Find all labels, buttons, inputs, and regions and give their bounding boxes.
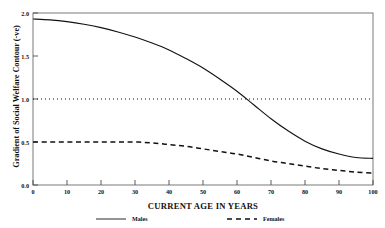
x-tick-label: 30	[123, 188, 147, 195]
y-tick-label: 0.5	[21, 139, 29, 146]
chart-legend: Males Females	[33, 213, 373, 227]
x-tick-label: 60	[225, 188, 249, 195]
legend-item-females[interactable]: Females	[227, 213, 284, 225]
x-tick-label: 100	[361, 188, 385, 195]
x-tick-label: 90	[327, 188, 351, 195]
legend-label-females: Females	[263, 216, 284, 222]
legend-label-males: Males	[132, 216, 148, 222]
x-tick-label: 40	[157, 188, 181, 195]
y-tick-label: 1.0	[21, 96, 29, 103]
x-tick-label: 10	[55, 188, 79, 195]
x-tick-label: 50	[191, 188, 215, 195]
y-tick-label: 1.5	[21, 53, 29, 60]
chart-figure: Gradient of Social Welfare Contour (-ve)…	[0, 0, 385, 228]
x-tick-label: 80	[293, 188, 317, 195]
legend-line-solid-icon	[96, 215, 126, 223]
legend-line-dashed-icon	[227, 215, 257, 223]
legend-item-males[interactable]: Males	[96, 213, 148, 225]
x-tick-label: 0	[21, 188, 45, 195]
x-tick-label: 70	[259, 188, 283, 195]
x-tick-label: 20	[89, 188, 113, 195]
y-tick-label: 2.0	[21, 10, 29, 17]
